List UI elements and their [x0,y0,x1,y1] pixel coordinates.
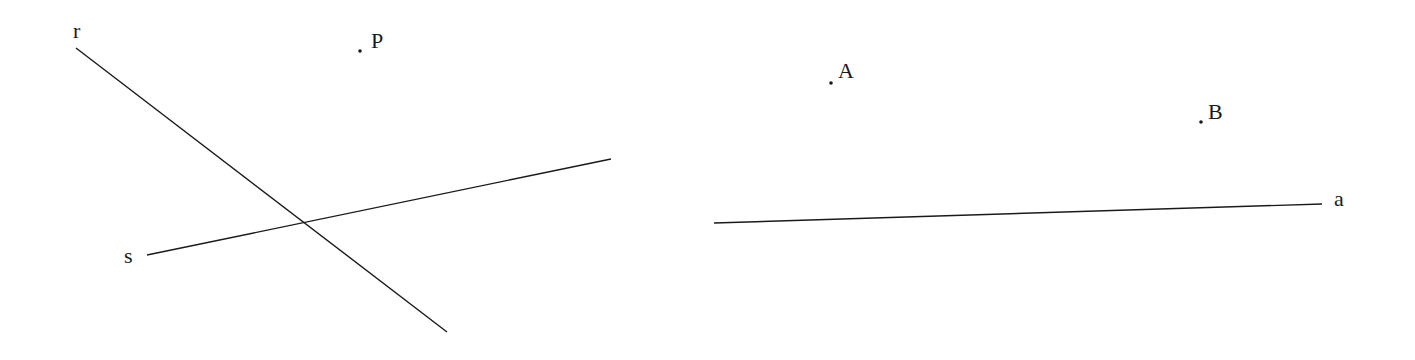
line-s [147,159,611,255]
point-a-label: A [838,60,854,82]
point-p-label: P [371,30,383,52]
point-a-dot [829,81,833,85]
line-a-label: a [1334,188,1344,210]
line-r [76,48,447,332]
point-b-label: B [1208,101,1223,123]
line-a [714,204,1322,223]
point-p-dot [358,49,362,53]
line-r-label: r [73,20,80,42]
line-s-label: s [124,245,133,267]
point-b-dot [1199,120,1203,124]
geometry-canvas [0,0,1415,360]
